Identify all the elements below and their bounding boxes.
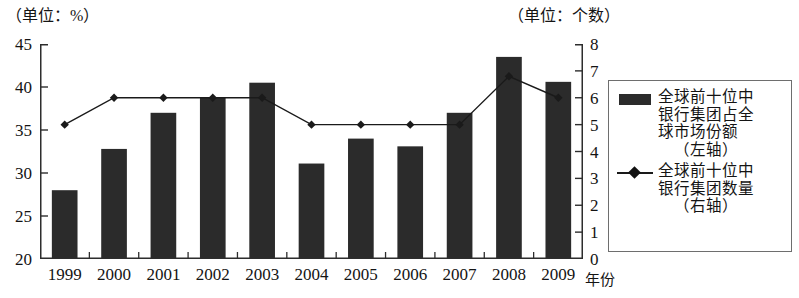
x-tick-2002: 2002 [187, 265, 239, 285]
right-tick-8: 8 [590, 36, 614, 53]
line-marker-2005 [357, 120, 365, 128]
x-tick-2004: 2004 [286, 265, 338, 285]
chart-canvas [40, 44, 583, 259]
line-marker-2000 [110, 94, 118, 102]
bar-2003 [249, 83, 275, 259]
legend-item-line: 全球前十位中 银行集团数量 （右轴） [615, 162, 787, 215]
line-marker-1999 [60, 120, 68, 128]
line-marker-2004 [307, 120, 315, 128]
bar-2005 [348, 139, 374, 259]
x-tick-2001: 2001 [137, 265, 189, 285]
left-tick-25: 25 [0, 208, 32, 225]
bar-1999 [52, 190, 78, 259]
x-tick-2006: 2006 [384, 265, 436, 285]
line-marker-swatch-icon [615, 164, 655, 182]
line-marker-2001 [159, 94, 167, 102]
bar-2009 [545, 82, 571, 259]
bar-2000 [101, 149, 127, 259]
left-tick-20: 20 [0, 251, 32, 268]
x-tick-2005: 2005 [335, 265, 387, 285]
right-tick-7: 7 [590, 63, 614, 80]
x-tick-2000: 2000 [88, 265, 140, 285]
x-axis-title: 年份 [585, 268, 615, 289]
legend-item-bar: 全球前十位中 银行集团占全 球市场份额 （左轴） [615, 88, 787, 158]
left-tick-35: 35 [0, 122, 32, 139]
x-tick-2007: 2007 [434, 265, 486, 285]
left-tick-45: 45 [0, 36, 32, 53]
bar-2006 [397, 146, 423, 259]
bar-2002 [200, 97, 226, 259]
line-series [65, 76, 559, 124]
left-tick-30: 30 [0, 165, 32, 182]
bar-2008 [496, 57, 522, 259]
bar-2004 [299, 164, 325, 259]
line-markers [60, 72, 562, 129]
bar-2001 [151, 113, 177, 259]
x-tick-2009: 2009 [532, 265, 584, 285]
chart-legend: 全球前十位中 银行集团占全 球市场份额 （左轴） 全球前十位中 银行集团数量 （… [608, 80, 792, 252]
x-tick-1999: 1999 [39, 265, 91, 285]
legend-item-bar-label: 全球前十位中 银行集团占全 球市场份额 （左轴） [658, 88, 754, 158]
left-axis-unit-caption: （单位：%） [6, 2, 99, 26]
chart-figure: （单位：%） （单位：个数） 202530354045 012345678 19… [0, 0, 799, 298]
x-tick-2008: 2008 [483, 265, 535, 285]
left-tick-40: 40 [0, 79, 32, 96]
right-tick-0: 0 [590, 251, 614, 268]
bar-swatch-icon [615, 90, 655, 108]
bar-2007 [447, 113, 473, 259]
right-axis-unit-caption: （单位：个数） [508, 2, 620, 26]
legend-item-line-label: 全球前十位中 银行集团数量 （右轴） [658, 162, 754, 215]
x-tick-2003: 2003 [236, 265, 288, 285]
bar-series [52, 57, 571, 259]
line-marker-2006 [406, 120, 414, 128]
plot-area [40, 44, 583, 259]
